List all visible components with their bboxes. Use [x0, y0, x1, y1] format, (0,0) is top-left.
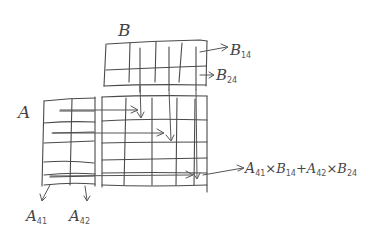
label-a41: A41: [24, 207, 47, 226]
label-b24: B24: [215, 66, 237, 85]
matrix-b-grid: [104, 40, 207, 92]
arrow-a42: [84, 186, 90, 201]
label-b14: B14: [229, 41, 251, 60]
arrow-b24: [200, 72, 214, 78]
matrix-b-label: B: [117, 20, 131, 40]
matrix-multiplication-diagram: B B14 B24 A A41 A42: [0, 0, 380, 242]
arrow-a41: [40, 185, 50, 201]
arrow-b14: [200, 44, 228, 52]
matrix-a-label: A: [16, 102, 30, 122]
arrow-result: [203, 165, 244, 175]
formula-text: A41×B14+A42×B24: [243, 160, 357, 178]
label-a42: A42: [67, 207, 90, 226]
